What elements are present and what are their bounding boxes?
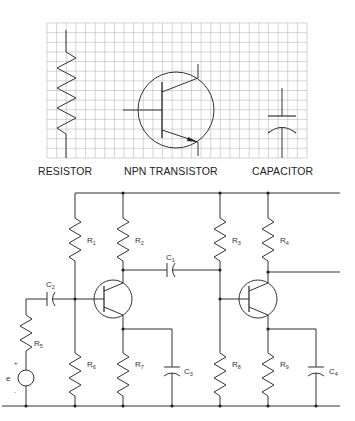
label-source-plus: + — [14, 360, 18, 366]
caption-capacitor: CAPACITOR — [252, 165, 313, 177]
caption-resistor: RESISTOR — [38, 165, 92, 177]
label-c3: C3 — [184, 367, 193, 377]
caption-npn-transistor: NPN TRANSISTOR — [124, 165, 218, 177]
label-r7: R7 — [135, 360, 144, 370]
label-r3: R3 — [232, 236, 241, 246]
label-source-minus: - — [14, 389, 16, 395]
label-r9: R9 — [280, 360, 289, 370]
label-r1: R1 — [87, 236, 96, 246]
label-r6: R6 — [87, 360, 96, 370]
label-r5: R5 — [34, 339, 43, 349]
label-source-e: e — [6, 374, 11, 383]
legend-grid — [47, 23, 307, 158]
label-c2: C2 — [46, 280, 55, 290]
amplifier-circuit: R1 R2 R3 R4 R5 R6 R7 R8 R9 C1 C2 C3 C4 e… — [2, 191, 340, 407]
label-c1: C1 — [166, 253, 175, 263]
diagram-canvas: R1 R2 R3 R4 R5 R6 R7 R8 R9 C1 C2 C3 C4 e… — [0, 0, 355, 421]
legend-capacitor-symbol — [268, 88, 296, 158]
label-c4: C4 — [329, 367, 338, 377]
label-r2: R2 — [135, 236, 144, 246]
label-r4: R4 — [280, 236, 289, 246]
label-r8: R8 — [232, 360, 241, 370]
